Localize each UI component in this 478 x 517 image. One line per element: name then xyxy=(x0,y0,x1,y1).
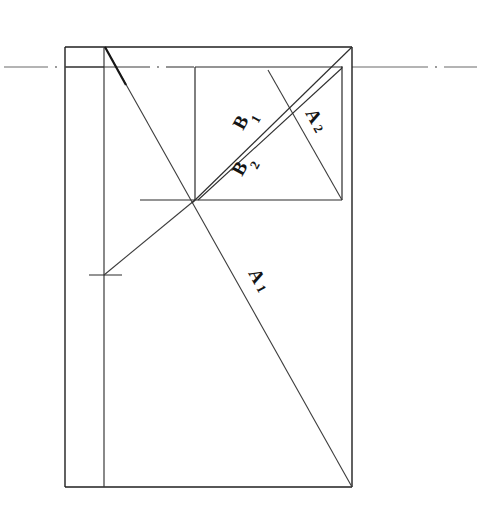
centerline-dot-right xyxy=(435,66,437,68)
diagonal-line-a2 xyxy=(268,70,342,200)
technical-drawing-canvas: B 1 B 2 A 2 A 1 xyxy=(0,0,478,517)
label-a2: A 2 xyxy=(302,105,327,135)
inner-rectangle xyxy=(195,67,342,200)
diagonal-line-b1 xyxy=(198,68,342,200)
label-b2: B 2 xyxy=(227,157,263,179)
centerline-dot-mid-a xyxy=(157,66,159,68)
centerline-dot-left xyxy=(55,66,57,68)
drawing-svg: B 1 B 2 A 2 A 1 xyxy=(0,0,478,517)
diagonal-line-b2 xyxy=(192,47,352,203)
label-a1: A 1 xyxy=(245,265,270,295)
label-b1: B 1 xyxy=(228,111,264,133)
diagonal-a1-accent-stroke xyxy=(105,47,126,85)
diagonal-ray-lower-left xyxy=(104,200,195,275)
